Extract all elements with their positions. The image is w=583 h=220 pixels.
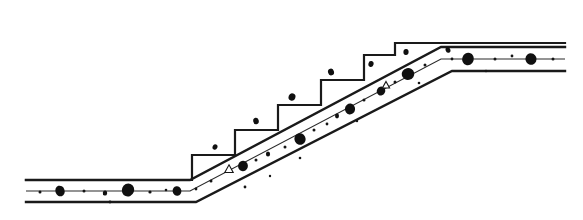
drawing-background xyxy=(0,0,583,220)
fines-speck xyxy=(511,55,514,58)
fines-speck xyxy=(418,82,421,85)
fines-speck xyxy=(424,64,427,67)
fines-speck xyxy=(363,99,366,102)
aggregate-particle xyxy=(266,152,270,157)
fines-speck xyxy=(284,146,287,149)
fines-speck xyxy=(494,58,497,61)
section-drawing xyxy=(0,0,583,220)
fines-speck xyxy=(148,190,151,193)
fines-speck xyxy=(210,180,213,183)
fines-speck xyxy=(269,175,271,177)
fines-speck xyxy=(109,201,112,204)
figure-canvas: Concrete slab on stepped subgrade — cros… xyxy=(0,0,583,220)
fines-speck xyxy=(39,191,42,194)
fines-speck xyxy=(451,58,454,61)
fines-speck xyxy=(313,129,316,132)
fines-speck xyxy=(83,190,86,193)
fines-speck xyxy=(255,159,258,162)
fines-speck xyxy=(326,123,329,126)
fines-speck xyxy=(195,188,198,191)
fines-speck xyxy=(485,70,488,73)
fines-speck xyxy=(244,186,247,189)
fines-speck xyxy=(552,58,555,61)
aggregate-particle xyxy=(335,114,339,119)
fines-speck xyxy=(165,189,168,192)
fines-speck xyxy=(299,157,302,160)
fines-speck xyxy=(394,81,397,84)
fines-speck xyxy=(356,120,358,122)
